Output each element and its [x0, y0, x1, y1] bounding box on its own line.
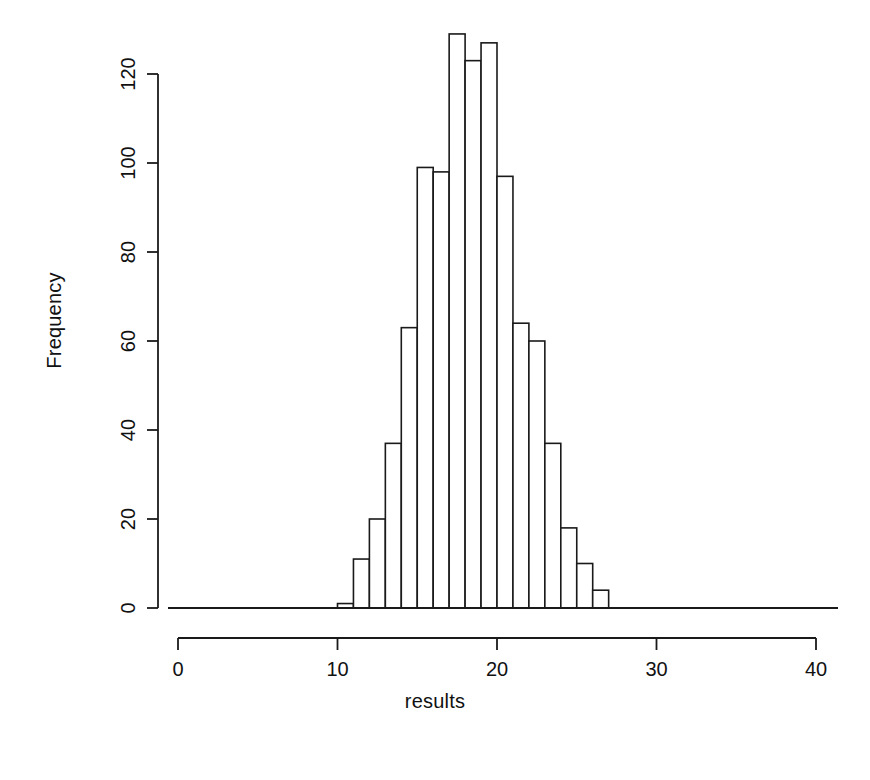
y-axis-tick-label: 60: [117, 330, 139, 352]
histogram-bar: [481, 43, 497, 608]
histogram-bar: [401, 328, 417, 608]
histogram-plot: 020406080100120010203040: [0, 0, 870, 780]
y-axis-title: Frequency: [0, 0, 114, 640]
histogram-bar: [465, 61, 481, 608]
y-axis: [147, 74, 158, 608]
histogram-bar: [593, 590, 609, 608]
x-axis-title: results: [0, 690, 870, 713]
histogram-bar: [369, 519, 385, 608]
y-axis-tick-label: 20: [117, 508, 139, 530]
histogram-bar: [497, 176, 513, 608]
histogram-bar: [529, 341, 545, 608]
histogram-bar: [545, 443, 561, 608]
y-axis-tick-label: 120: [117, 57, 139, 90]
x-axis-tick-label: 30: [645, 658, 667, 680]
x-axis: [178, 638, 816, 650]
y-axis-title-text: Frequency: [42, 272, 65, 368]
bars-group: [338, 34, 609, 608]
histogram-bar: [417, 167, 433, 608]
histogram-bar: [353, 559, 369, 608]
histogram-svg: 020406080100120010203040: [0, 0, 870, 780]
y-axis-tick-label: 40: [117, 419, 139, 441]
x-axis-tick-label: 40: [805, 658, 827, 680]
y-axis-tick-label: 0: [117, 602, 139, 613]
histogram-bar: [449, 34, 465, 608]
histogram-bar: [513, 323, 529, 608]
y-axis-tick-label: 100: [117, 146, 139, 179]
histogram-bar: [561, 528, 577, 608]
y-axis-tick-label: 80: [117, 241, 139, 263]
x-axis-tick-label: 10: [326, 658, 348, 680]
x-axis-tick-label: 0: [172, 658, 183, 680]
histogram-bar: [433, 172, 449, 608]
histogram-bar: [577, 564, 593, 609]
x-axis-tick-label: 20: [486, 658, 508, 680]
histogram-bar: [385, 443, 401, 608]
